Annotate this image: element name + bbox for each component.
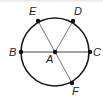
point-d [71,19,75,23]
label-b: B [9,46,16,58]
point-c [88,50,92,54]
label-d: D [74,5,82,17]
radius-af [55,52,72,83]
label-f: F [72,85,80,97]
circle-diagram: A B C D E F [0,0,103,98]
label-c: C [93,46,101,58]
point-a [53,50,57,54]
point-b [19,50,23,54]
radius-ae [38,21,55,52]
radius-ad [55,21,73,52]
point-e [36,19,40,23]
label-e: E [29,5,37,17]
label-a: A [45,53,53,65]
